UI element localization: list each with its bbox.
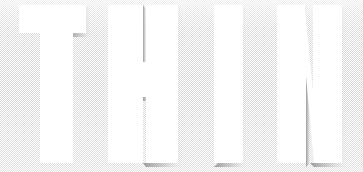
wordmark-svg xyxy=(0,0,363,172)
poster-canvas: THIN xyxy=(0,0,363,172)
letter-h-glyph xyxy=(108,5,178,163)
letter-t-glyph xyxy=(19,5,86,163)
wordmark: THIN xyxy=(0,0,363,172)
letter-i-glyph xyxy=(214,5,243,163)
shadow-h-left-stem xyxy=(143,5,146,62)
